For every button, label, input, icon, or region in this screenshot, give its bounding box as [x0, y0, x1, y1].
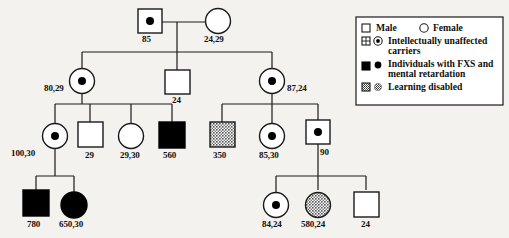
person-label-I-1: 85 [142, 34, 151, 44]
person-label-II-3: 87,24 [287, 83, 307, 93]
person-label-III-3: 29,30 [120, 150, 140, 160]
legend-icon-square-with-dot [362, 37, 370, 45]
person-label-IV-3: 84,24 [262, 219, 282, 229]
person-label-IV-2: 650,30 [59, 219, 83, 229]
person-III-1 [43, 124, 68, 149]
person-II-1 [70, 69, 95, 94]
person-I-1 [138, 9, 162, 33]
person-label-III-5: 350 [213, 150, 226, 160]
legend-icon-open-square [362, 24, 370, 32]
legend-icon-stippled-circle [374, 83, 381, 90]
person-IV-3 [264, 193, 289, 218]
person-III-3 [119, 124, 144, 149]
person-IV-1 [23, 190, 49, 216]
person-IV-5 [354, 192, 379, 217]
person-label-IV-4: 580,24 [301, 219, 325, 229]
person-IV-2 [61, 192, 87, 218]
legend-label-learning-disabled: Learning disabled [388, 82, 462, 93]
legend-label-affected-line2: mental retardation [388, 69, 465, 80]
person-III-5 [210, 122, 235, 147]
legend-icon-stippled-square [362, 83, 370, 91]
person-label-II-1: 80,29 [44, 83, 64, 93]
legend-label-carrier-line2: carriers [388, 46, 421, 57]
connector-lines [36, 22, 366, 192]
legend-label-male: Male [376, 23, 397, 34]
person-II-2 [165, 70, 190, 94]
person-label-III-6: 85,30 [259, 150, 279, 160]
person-label-III-1: 100,30 [11, 148, 35, 158]
person-III-6 [260, 124, 285, 149]
person-label-II-2: 24 [172, 95, 181, 105]
person-label-III-4: 560 [163, 150, 176, 160]
person-III-7 [306, 120, 330, 144]
legend-icon-filled-square [362, 62, 370, 70]
person-label-I-2: 24,29 [204, 34, 224, 44]
person-label-IV-1: 780 [27, 219, 40, 229]
legend-icon-open-circle [420, 24, 428, 32]
person-I-2 [206, 9, 231, 34]
person-III-2 [78, 122, 103, 147]
person-label-III-2: 29 [85, 150, 94, 160]
legend-icon-filled-circle [375, 62, 382, 69]
person-IV-4 [306, 193, 331, 218]
person-label-III-7: 90 [320, 147, 329, 157]
person-III-4 [159, 122, 185, 148]
pedigree-figure: 85 24,29 80,29 24 87,24 100,30 29 29,30 … [0, 0, 509, 238]
person-label-IV-5: 24 [361, 219, 370, 229]
person-II-3 [260, 69, 285, 94]
legend-icon-circle-with-dot [374, 37, 382, 45]
legend-label-female: Female [433, 23, 463, 34]
